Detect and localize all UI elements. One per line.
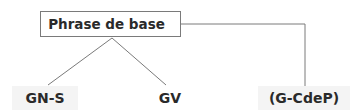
connector-gn-s <box>48 38 112 85</box>
node-gn-s: GN-S <box>12 86 78 110</box>
root-label: Phrase de base <box>44 16 165 32</box>
connector-gv <box>112 38 166 85</box>
node-label: GV <box>159 90 181 106</box>
root-node: Phrase de base <box>40 11 181 37</box>
node-label: GN-S <box>25 90 64 106</box>
node-gv: GV <box>150 86 190 110</box>
node-g-cdep: (G-CdeP) <box>258 86 350 110</box>
node-label: (G-CdeP) <box>269 90 339 106</box>
connector-g-cdep <box>172 24 305 88</box>
